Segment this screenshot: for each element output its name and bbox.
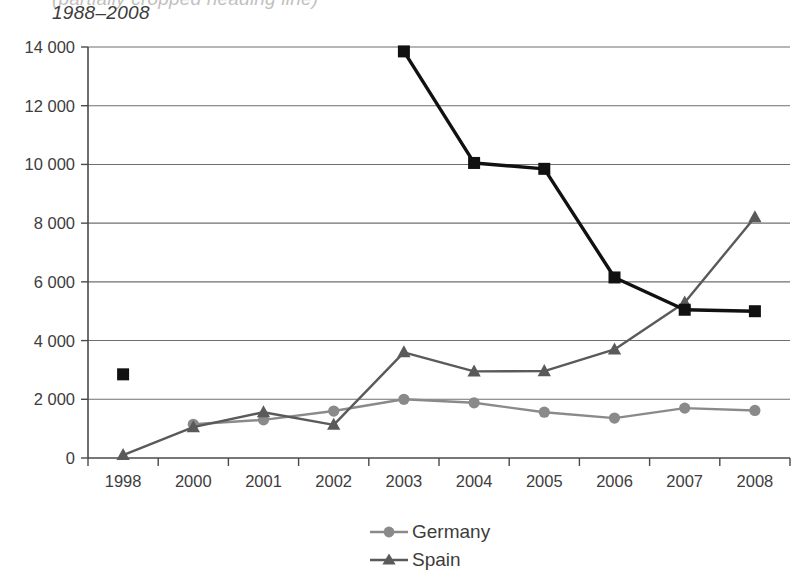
series-line-segment xyxy=(404,352,474,371)
series-line-segment xyxy=(615,408,685,418)
x-axis-tick-label: 2006 xyxy=(596,472,633,490)
y-axis-ticks-group xyxy=(81,47,88,458)
plot-area: 02 0004 0006 0008 00010 00012 00014 000 … xyxy=(0,0,805,505)
chart-figure: (partially cropped heading line) 1988–20… xyxy=(0,0,805,576)
y-axis-tick-label: 10 000 xyxy=(25,155,75,173)
circle-marker-icon xyxy=(469,397,480,408)
series-line-segment xyxy=(404,51,474,163)
series-line-segment xyxy=(474,403,544,412)
square-marker-icon xyxy=(609,271,621,283)
series-unlabeled xyxy=(117,45,761,380)
series-line-segment xyxy=(334,399,404,411)
series-line-segment xyxy=(685,408,755,410)
x-axis-tick-label: 2007 xyxy=(666,472,703,490)
circle-marker-icon xyxy=(609,412,620,423)
circle-marker-icon xyxy=(539,407,550,418)
circle-marker-icon xyxy=(749,405,760,416)
square-marker-icon xyxy=(398,45,410,57)
series-line-segment xyxy=(123,427,193,455)
legend-item-germany: Germany xyxy=(0,518,805,546)
square-marker-icon xyxy=(749,305,761,317)
series-line-segment xyxy=(474,163,544,169)
series-line-segment xyxy=(544,412,614,418)
x-axis-ticks-group xyxy=(88,458,790,466)
x-axis-labels-group: 1998200020012002200320042005200620072008 xyxy=(105,472,774,490)
y-axis-tick-label: 2 000 xyxy=(34,390,75,408)
series-line-segment xyxy=(334,352,404,425)
x-axis-tick-label: 2002 xyxy=(315,472,352,490)
series-line-segment xyxy=(544,349,614,371)
data-series-group xyxy=(116,45,761,460)
triangle-marker-icon xyxy=(368,550,410,570)
x-axis-tick-label: 2001 xyxy=(245,472,282,490)
series-line-segment xyxy=(615,302,685,349)
line-chart-svg: 02 0004 0006 0008 00010 00012 00014 000 … xyxy=(0,0,805,505)
square-marker-icon xyxy=(468,157,480,169)
y-axis-tick-label: 6 000 xyxy=(34,273,75,291)
legend-label-germany: Germany xyxy=(412,522,490,542)
x-axis-tick-label: 1998 xyxy=(105,472,142,490)
square-marker-icon xyxy=(679,304,691,316)
circle-marker-icon xyxy=(398,394,409,405)
y-axis-tick-label: 12 000 xyxy=(25,97,75,115)
series-line-segment xyxy=(685,310,755,311)
square-marker-icon xyxy=(117,368,129,380)
square-marker-icon xyxy=(538,163,550,175)
legend-label-spain: Spain xyxy=(412,550,461,570)
triangle-marker-icon xyxy=(748,210,761,222)
x-axis-tick-label: 2000 xyxy=(175,472,212,490)
circle-marker-icon xyxy=(679,402,690,413)
legend-item-spain: Spain xyxy=(0,546,805,574)
series-line-segment xyxy=(685,217,755,302)
series-spain xyxy=(116,210,761,460)
x-axis-tick-label: 2003 xyxy=(386,472,423,490)
y-axis-tick-label: 0 xyxy=(66,449,75,467)
y-axis-tick-label: 14 000 xyxy=(25,38,75,56)
y-axis-tick-label: 4 000 xyxy=(34,332,75,350)
x-axis-tick-label: 2005 xyxy=(526,472,563,490)
triangle-marker-icon xyxy=(397,345,410,357)
triangle-marker-icon xyxy=(608,342,621,354)
x-axis-tick-label: 2004 xyxy=(456,472,493,490)
circle-marker-icon xyxy=(368,522,410,542)
y-axis-labels-group: 02 0004 0006 0008 00010 00012 00014 000 xyxy=(25,38,75,467)
x-axis-tick-label: 2008 xyxy=(737,472,774,490)
chart-legend: Germany Spain xyxy=(0,518,805,574)
triangle-marker-icon xyxy=(257,405,270,417)
gridlines-group xyxy=(88,47,790,399)
circle-marker-icon xyxy=(328,405,339,416)
y-axis-tick-label: 8 000 xyxy=(34,214,75,232)
